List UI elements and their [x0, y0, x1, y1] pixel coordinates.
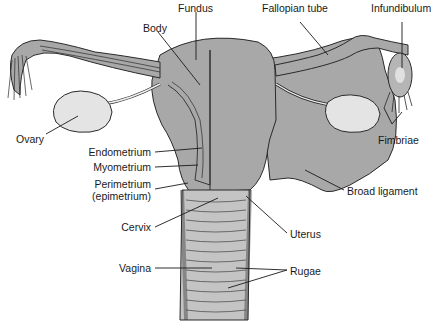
label-uterus: Uterus — [290, 228, 321, 240]
label-infundibulum: Infundibulum — [371, 2, 431, 14]
label-rugae: Rugae — [290, 265, 321, 277]
label-myometrium: Myometrium — [85, 161, 151, 173]
label-perimetrium: Perimetrium — [85, 178, 151, 190]
label-fallopian-tube: Fallopian tube — [262, 2, 328, 14]
label-broad-ligament: Broad ligament — [347, 185, 418, 197]
right-ovary-shape — [325, 95, 380, 132]
label-epimetrium: (epimetrium) — [85, 190, 151, 202]
anatomy-illustration — [0, 0, 435, 326]
label-ovary: Ovary — [16, 133, 44, 145]
label-endometrium: Endometrium — [85, 146, 151, 158]
label-body: Body — [143, 22, 167, 34]
label-fundus: Fundus — [178, 2, 213, 14]
label-fimbriae: Fimbriae — [378, 134, 419, 146]
left-ovary-shape — [53, 91, 112, 132]
uterus-shape — [152, 38, 276, 192]
reproductive-anatomy-diagram: Fundus Body Fallopian tube Infundibulum … — [0, 0, 435, 326]
label-cervix: Cervix — [85, 221, 151, 233]
label-vagina: Vagina — [85, 262, 151, 274]
